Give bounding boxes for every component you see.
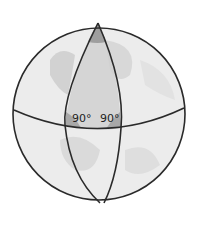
left-angle-label: 90° [72, 112, 92, 125]
right-angle-label: 90° [100, 112, 120, 125]
globe-diagram: 90° 90° [0, 0, 202, 228]
